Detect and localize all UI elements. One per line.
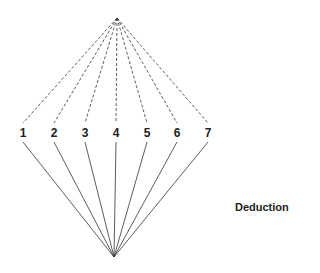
dashed-edge-2 (54, 18, 117, 123)
solid-edge-3 (85, 142, 114, 257)
dashed-edges (23, 18, 208, 123)
solid-edge-4 (114, 142, 116, 257)
solid-edge-7 (114, 142, 208, 257)
node-label-4: 4 (113, 127, 120, 139)
solid-edges (23, 142, 208, 257)
node-label-2: 2 (51, 127, 58, 139)
solid-edge-2 (54, 142, 114, 257)
solid-edge-1 (23, 142, 114, 257)
node-label-5: 5 (144, 127, 151, 139)
node-label-3: 3 (82, 127, 89, 139)
dashed-edge-4 (116, 18, 117, 123)
solid-edge-6 (114, 142, 177, 257)
dashed-edge-6 (117, 18, 177, 123)
node-label-7: 7 (205, 127, 212, 139)
dashed-edge-3 (85, 18, 117, 123)
dashed-edge-1 (23, 18, 117, 123)
dashed-edge-5 (117, 18, 147, 123)
node-label-6: 6 (174, 127, 181, 139)
solid-edge-5 (114, 142, 147, 257)
node-label-1: 1 (20, 127, 27, 139)
dashed-edge-7 (117, 18, 208, 123)
diagram-title: Deduction (235, 202, 289, 213)
